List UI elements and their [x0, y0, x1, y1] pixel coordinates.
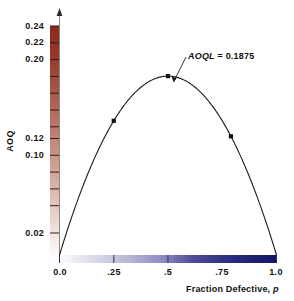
y-tick-label-0: 0.24: [10, 21, 44, 31]
y-tick-label-3: 0.12: [10, 133, 44, 143]
x-axis-title: Fraction Defective, p: [186, 284, 279, 294]
aoq-marker-0: [112, 119, 116, 123]
x-tick-label-1: .25: [97, 267, 131, 277]
y-tick-label-2: 0.20: [10, 54, 44, 64]
aoq-marker-2: [229, 134, 233, 138]
x-tick-label-0: 0.0: [43, 267, 77, 277]
x-tick-label-2: .5: [151, 267, 185, 277]
aoql-annotation-symbol: AOQL: [188, 51, 215, 61]
y-tick-label-1: 0.22: [10, 37, 44, 47]
annotation-leader-line: [175, 57, 186, 79]
y-tick-label-4: 0.10: [10, 150, 44, 160]
aoq-curve-path: [60, 76, 277, 255]
x-tick-label-4: 1.0: [259, 267, 293, 277]
aoq-data-markers: [112, 74, 233, 138]
y-axis-colorbar: [50, 26, 59, 260]
x-tick-label-3: .75: [205, 267, 239, 277]
y-axis-title: AOQ: [5, 121, 15, 161]
x-axis-title-main: Fraction Defective,: [186, 284, 270, 294]
x-axis-title-variable: p: [273, 284, 279, 294]
aoql-annotation-label: AOQL = 0.1875: [188, 51, 254, 61]
aoq-marker-1: [166, 74, 170, 78]
y-axis-arrow: [57, 8, 63, 16]
aoq-curve-chart: 0.24 0.22 0.20 0.12 0.10 0.02 0.0 .25 .5…: [0, 0, 294, 301]
y-tick-label-5: 0.02: [10, 228, 44, 238]
chart-plot-area: [0, 0, 294, 301]
aoql-annotation-value: = 0.1875: [215, 51, 255, 61]
